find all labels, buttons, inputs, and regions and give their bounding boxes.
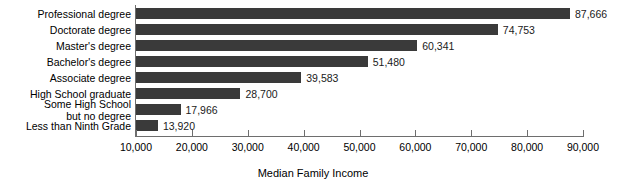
bar [136, 104, 181, 115]
plot-area: 87,66674,75360,34151,48039,58328,70017,9… [136, 0, 583, 136]
category-label: Some High School but no degree [0, 98, 136, 122]
bar [136, 120, 158, 131]
bar-row: 74,753 [136, 24, 583, 35]
category-label: Associate degree [0, 72, 136, 84]
x-tick-label: 60,000 [399, 141, 431, 153]
bar-value-label: 28,700 [245, 88, 277, 99]
x-tick-mark [527, 130, 528, 136]
category-label: Less than Ninth Grade [0, 120, 136, 132]
category-axis-labels: Professional degreeDoctorate degreeMaste… [0, 0, 131, 136]
bar-row: 87,666 [136, 8, 583, 19]
bar-value-label: 60,341 [422, 40, 454, 51]
x-tick-mark [192, 130, 193, 136]
x-tick-mark [136, 130, 137, 136]
x-tick-label: 30,000 [232, 141, 264, 153]
category-label: Master's degree [0, 40, 136, 52]
bar-row: 17,966 [136, 104, 583, 115]
x-axis-title: Median Family Income [0, 167, 626, 179]
bar-row: 39,583 [136, 72, 583, 83]
x-tick-mark [360, 130, 361, 136]
x-tick-label: 70,000 [455, 141, 487, 153]
bar-row: 60,341 [136, 40, 583, 51]
x-tick-mark [471, 130, 472, 136]
x-tick-label: 80,000 [511, 141, 543, 153]
x-tick-label: 90,000 [567, 141, 599, 153]
x-tick-mark [304, 130, 305, 136]
x-tick-label: 20,000 [176, 141, 208, 153]
category-label: Professional degree [0, 8, 136, 20]
bar [136, 8, 570, 19]
bar-row: 51,480 [136, 56, 583, 67]
category-label: Doctorate degree [0, 24, 136, 36]
bar [136, 56, 368, 67]
bar-row: 28,700 [136, 88, 583, 99]
bar [136, 72, 301, 83]
category-label: Bachelor's degree [0, 56, 136, 68]
x-tick-mark [415, 130, 416, 136]
x-tick-label: 10,000 [120, 141, 152, 153]
bar-value-label: 39,583 [306, 72, 338, 83]
bar [136, 40, 417, 51]
bar-value-label: 13,920 [163, 120, 195, 131]
x-tick-mark [248, 130, 249, 136]
bar [136, 88, 240, 99]
median-family-income-bar-chart: Professional degreeDoctorate degreeMaste… [0, 0, 626, 191]
x-tick-label: 40,000 [288, 141, 320, 153]
bar-value-label: 17,966 [186, 104, 218, 115]
bar-value-label: 74,753 [503, 24, 535, 35]
bar-value-label: 51,480 [373, 56, 405, 67]
bar-value-label: 87,666 [575, 8, 607, 19]
category-axis-line [135, 136, 584, 137]
x-tick-label: 50,000 [343, 141, 375, 153]
bar [136, 24, 498, 35]
x-tick-mark [583, 130, 584, 136]
